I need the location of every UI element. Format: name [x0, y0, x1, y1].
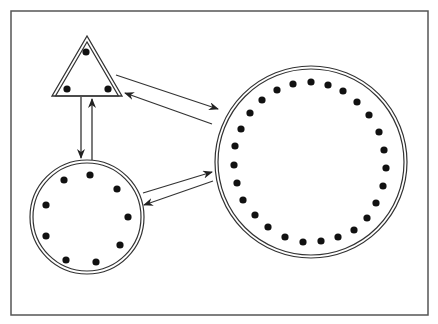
network-nodes [30, 36, 407, 274]
arrow-triangle-to-large-circle [116, 75, 218, 109]
node-dot [264, 223, 271, 230]
node-dot [231, 142, 238, 149]
diagram-canvas [0, 0, 438, 324]
node-dot [239, 196, 246, 203]
node-dot [339, 87, 346, 94]
node-dot [365, 111, 372, 118]
node-dot [62, 256, 69, 263]
node-dot [116, 241, 123, 248]
node-dot [113, 185, 120, 192]
triangle-outer [52, 36, 122, 96]
node-dot [353, 98, 360, 105]
node-dot [233, 179, 240, 186]
node-dot [372, 199, 379, 206]
node-dot [273, 86, 280, 93]
node-dot [104, 85, 111, 92]
node-dot [237, 125, 244, 132]
node-dot [60, 176, 67, 183]
circle-outer-ring [215, 66, 407, 258]
node-dot [350, 226, 357, 233]
network-diagram [0, 0, 438, 324]
node-dot [334, 233, 341, 240]
node-dot [42, 201, 49, 208]
node-dot [230, 161, 237, 168]
node-dot [324, 81, 331, 88]
node-dot [246, 109, 253, 116]
node-dot [251, 211, 258, 218]
node-dot [82, 48, 89, 55]
node-dot [307, 78, 314, 85]
node-dot [92, 258, 99, 265]
node-dot [124, 213, 131, 220]
node-dot [86, 171, 93, 178]
arrow-small-circle-to-large-circle [143, 172, 212, 193]
node-dot [317, 237, 324, 244]
node-dot [379, 182, 386, 189]
node-dot [258, 96, 265, 103]
arrow-large-circle-to-small-circle [144, 181, 213, 205]
node-dot [380, 146, 387, 153]
node-large-circle [215, 66, 407, 258]
node-dot [299, 238, 306, 245]
node-dot [363, 214, 370, 221]
node-dot [375, 128, 382, 135]
node-dot [382, 164, 389, 171]
arrow-large-circle-to-triangle [125, 93, 212, 124]
node-dot [289, 80, 296, 87]
node-dot [42, 232, 49, 239]
node-dot [281, 233, 288, 240]
node-triangle [52, 36, 122, 96]
node-small-circle [30, 160, 144, 274]
node-dot [63, 85, 70, 92]
